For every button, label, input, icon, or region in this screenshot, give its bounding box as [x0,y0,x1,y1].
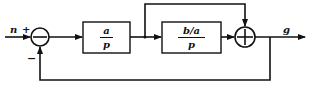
summing-junction-2 [235,27,255,47]
feedback-path [40,37,270,80]
block2-numerator: b/a [183,25,200,36]
block-diagram: n + − a p b/a p g [0,0,309,88]
block-a-over-p: a p [83,22,130,53]
minus-sign: − [27,52,36,65]
plus-sign: + [22,24,30,35]
block-b-over-a-over-p: b/a p [162,22,221,53]
block1-numerator: a [103,25,109,36]
block1-denominator: p [103,39,110,50]
output-signal: g [255,24,305,37]
input-label: n [10,24,17,35]
output-label: g [283,24,290,35]
block2-denominator: p [188,39,195,50]
summing-junction-1: + − [22,24,49,65]
